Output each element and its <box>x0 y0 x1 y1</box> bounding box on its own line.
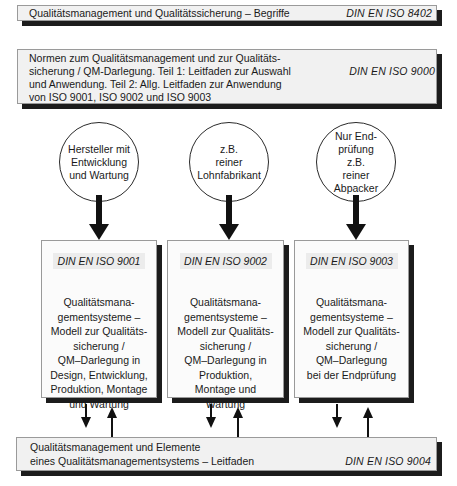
arrow-up-icon <box>363 407 373 437</box>
arrow-down-icon <box>219 195 239 240</box>
arrow-up-icon <box>107 407 117 437</box>
arrow-up-icon <box>233 407 243 437</box>
arrow-down-icon <box>81 404 91 428</box>
arrow-down-icon <box>206 404 216 428</box>
arrow-down-icon <box>346 195 366 240</box>
arrow-down-icon <box>89 195 109 240</box>
arrows-layer <box>0 0 457 486</box>
arrow-down-icon <box>332 404 342 428</box>
